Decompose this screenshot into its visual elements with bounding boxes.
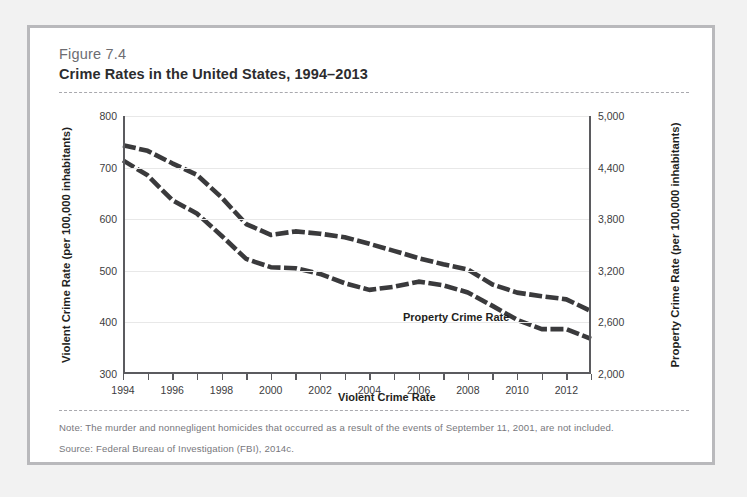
x-axis-tick	[394, 374, 395, 380]
x-axis-tick	[591, 374, 592, 380]
gridline	[123, 322, 591, 323]
right-axis-tick-label: 5,000	[598, 110, 624, 122]
x-axis-tick	[345, 374, 346, 380]
x-axis-tick-label: 1994	[111, 384, 134, 396]
x-axis-tick	[123, 374, 124, 380]
right-axis-line	[589, 116, 591, 374]
left-axis-tick-label: 400	[99, 316, 117, 328]
x-axis-tick	[320, 374, 321, 380]
left-axis-title: Violent Crime Rate (per 100,000 inhabita…	[60, 127, 72, 363]
series-path-violent-crime-rate	[123, 160, 591, 339]
left-axis-tick-label: 300	[99, 368, 117, 380]
x-axis-tick	[566, 374, 567, 380]
figure-source: Source: Federal Bureau of Investigation …	[59, 443, 294, 454]
x-axis-tick	[222, 374, 223, 380]
x-axis-tick	[468, 374, 469, 380]
x-axis-tick	[246, 374, 247, 380]
x-axis-tick	[443, 374, 444, 380]
left-axis-tick-label: 600	[99, 213, 117, 225]
x-axis-tick	[271, 374, 272, 380]
left-axis-tick-label: 700	[99, 162, 117, 174]
x-axis-tick	[542, 374, 543, 380]
x-axis-line	[123, 372, 591, 374]
right-axis-title: Property Crime Rate (per 100,000 inhabit…	[669, 123, 681, 368]
gridline	[123, 219, 591, 220]
series-lines	[123, 116, 591, 374]
x-axis-tick	[295, 374, 296, 380]
series-label-property-crime-rate: Property Crime Rate	[403, 311, 509, 323]
gridline	[123, 168, 591, 169]
x-axis-tick-label: 2012	[555, 384, 578, 396]
chart-canvas: Violent Crime Rate (per 100,000 inhabita…	[30, 28, 718, 410]
x-axis-tick	[172, 374, 173, 380]
x-axis-tick	[148, 374, 149, 380]
figure-note: Note: The murder and nonnegligent homici…	[59, 422, 614, 433]
left-axis-tick-label: 800	[99, 110, 117, 122]
plot-area: 300400500600700800 2,0002,6003,2003,8004…	[123, 116, 591, 374]
right-axis-tick-label: 3,200	[598, 265, 624, 277]
x-axis-tick	[517, 374, 518, 380]
x-axis-tick	[492, 374, 493, 380]
series-label-violent-crime-rate: Violent Crime Rate	[338, 391, 436, 403]
right-axis-tick-label: 3,800	[598, 213, 624, 225]
right-axis-tick-label: 2,000	[598, 368, 624, 380]
gridline	[123, 116, 591, 117]
x-axis-tick-label: 1998	[210, 384, 233, 396]
x-axis-tick-label: 1996	[161, 384, 184, 396]
left-axis-tick-label: 500	[99, 265, 117, 277]
x-axis-tick-label: 2000	[259, 384, 282, 396]
x-axis-tick	[369, 374, 370, 380]
right-axis-tick-label: 4,400	[598, 162, 624, 174]
x-axis-tick-label: 2010	[505, 384, 528, 396]
x-axis-tick	[197, 374, 198, 380]
figure-container: Figure 7.4 Crime Rates in the United Sta…	[27, 25, 715, 465]
x-axis-tick-label: 2002	[308, 384, 331, 396]
x-axis-tick-label: 2008	[456, 384, 479, 396]
divider-bottom	[59, 410, 689, 411]
gridline	[123, 271, 591, 272]
right-axis-tick-label: 2,600	[598, 316, 624, 328]
x-axis-tick	[419, 374, 420, 380]
left-axis-line	[123, 116, 125, 374]
